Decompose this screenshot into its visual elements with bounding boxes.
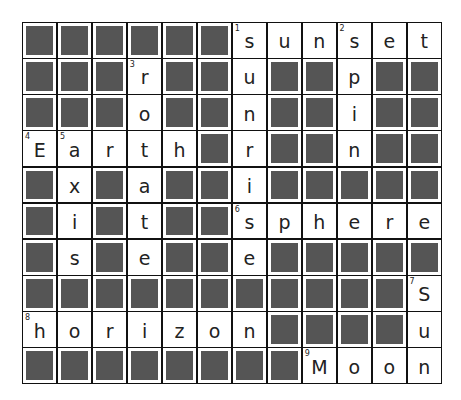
block-cell bbox=[373, 276, 406, 311]
letter-cell[interactable]: r bbox=[233, 131, 266, 166]
block-cell bbox=[303, 312, 336, 347]
letter-cell[interactable]: n bbox=[303, 23, 336, 58]
letter-cell[interactable]: s bbox=[58, 240, 91, 275]
block-cell bbox=[338, 312, 371, 347]
block-cell bbox=[163, 95, 196, 130]
letter-cell[interactable]: h bbox=[163, 131, 196, 166]
letter-cell[interactable]: 5a bbox=[58, 131, 91, 166]
cell-letter: s bbox=[245, 30, 255, 52]
letter-cell[interactable]: t bbox=[128, 131, 161, 166]
block-cell bbox=[303, 168, 336, 203]
block-cell bbox=[58, 95, 91, 130]
block-cell bbox=[373, 312, 406, 347]
block-cell bbox=[128, 23, 161, 58]
letter-cell[interactable]: t bbox=[408, 23, 441, 58]
cell-letter: p bbox=[348, 66, 360, 88]
letter-cell[interactable]: e bbox=[338, 204, 371, 239]
block-cell bbox=[93, 95, 126, 130]
letter-cell[interactable]: p bbox=[338, 59, 371, 94]
block-cell bbox=[23, 23, 56, 58]
cell-letter: h bbox=[313, 211, 325, 233]
letter-cell[interactable]: u bbox=[233, 59, 266, 94]
block-cell bbox=[23, 168, 56, 203]
block-cell bbox=[93, 204, 126, 239]
letter-cell[interactable]: n bbox=[233, 312, 266, 347]
block-cell bbox=[268, 95, 301, 130]
cell-letter: a bbox=[139, 175, 151, 197]
letter-cell[interactable]: n bbox=[408, 348, 441, 383]
letter-cell[interactable]: r bbox=[373, 204, 406, 239]
block-cell bbox=[408, 131, 441, 166]
letter-cell[interactable]: i bbox=[128, 312, 161, 347]
cell-letter: s bbox=[70, 247, 80, 269]
block-cell bbox=[23, 59, 56, 94]
cell-letter: o bbox=[139, 103, 151, 125]
cell-letter: a bbox=[69, 139, 81, 161]
letter-cell[interactable]: 4E bbox=[23, 131, 56, 166]
cell-letter: n bbox=[348, 139, 360, 161]
letter-cell[interactable]: 2s bbox=[338, 23, 371, 58]
cell-letter: r bbox=[385, 211, 393, 233]
block-cell bbox=[163, 204, 196, 239]
cell-letter: h bbox=[34, 320, 46, 342]
cell-letter: i bbox=[142, 320, 147, 342]
cell-letter: r bbox=[246, 139, 254, 161]
letter-cell[interactable]: i bbox=[233, 168, 266, 203]
cell-letter: i bbox=[247, 175, 252, 197]
letter-cell[interactable]: r bbox=[93, 131, 126, 166]
cell-letter: r bbox=[106, 320, 114, 342]
cell-letter: u bbox=[278, 30, 290, 52]
cell-letter: o bbox=[69, 320, 81, 342]
letter-cell[interactable]: e bbox=[128, 240, 161, 275]
cell-letter: n bbox=[313, 30, 325, 52]
letter-cell[interactable]: n bbox=[233, 95, 266, 130]
letter-cell[interactable]: e bbox=[233, 240, 266, 275]
block-cell bbox=[373, 168, 406, 203]
cell-letter: E bbox=[34, 139, 46, 161]
letter-cell[interactable]: 6s bbox=[233, 204, 266, 239]
letter-cell[interactable]: 7S bbox=[408, 276, 441, 311]
block-cell bbox=[338, 276, 371, 311]
cell-letter: n bbox=[418, 356, 430, 378]
letter-cell[interactable]: t bbox=[128, 204, 161, 239]
letter-cell[interactable]: 8h bbox=[23, 312, 56, 347]
letter-cell[interactable]: a bbox=[128, 168, 161, 203]
cell-letter: s bbox=[349, 30, 359, 52]
clue-number: 2 bbox=[340, 24, 345, 33]
letter-cell[interactable]: e bbox=[408, 204, 441, 239]
letter-cell[interactable]: 1s bbox=[233, 23, 266, 58]
letter-cell[interactable]: r bbox=[93, 312, 126, 347]
cell-letter: t bbox=[141, 139, 148, 161]
letter-cell[interactable]: o bbox=[198, 312, 231, 347]
block-cell bbox=[198, 348, 231, 383]
letter-cell[interactable]: x bbox=[58, 168, 91, 203]
letter-cell[interactable]: o bbox=[128, 95, 161, 130]
cell-letter: e bbox=[348, 211, 360, 233]
letter-cell[interactable]: i bbox=[58, 204, 91, 239]
block-cell bbox=[23, 240, 56, 275]
letter-cell[interactable]: n bbox=[338, 131, 371, 166]
letter-cell[interactable]: z bbox=[163, 312, 196, 347]
block-cell bbox=[93, 23, 126, 58]
letter-cell[interactable]: p bbox=[268, 204, 301, 239]
letter-cell[interactable]: h bbox=[303, 204, 336, 239]
block-cell bbox=[23, 276, 56, 311]
letter-cell[interactable]: e bbox=[373, 23, 406, 58]
letter-cell[interactable]: 9M bbox=[303, 348, 336, 383]
cell-letter: o bbox=[349, 356, 361, 378]
letter-cell[interactable]: u bbox=[268, 23, 301, 58]
letter-cell[interactable]: o bbox=[338, 348, 371, 383]
block-cell bbox=[23, 95, 56, 130]
letter-cell[interactable]: 3r bbox=[128, 59, 161, 94]
block-cell bbox=[303, 95, 336, 130]
letter-cell[interactable]: u bbox=[408, 312, 441, 347]
block-cell bbox=[303, 240, 336, 275]
letter-cell[interactable]: i bbox=[338, 95, 371, 130]
block-cell bbox=[163, 276, 196, 311]
cell-letter: e bbox=[244, 247, 256, 269]
letter-cell[interactable]: o bbox=[373, 348, 406, 383]
clue-number: 5 bbox=[60, 132, 65, 141]
block-cell bbox=[93, 168, 126, 203]
cell-letter: n bbox=[243, 103, 255, 125]
letter-cell[interactable]: o bbox=[58, 312, 91, 347]
